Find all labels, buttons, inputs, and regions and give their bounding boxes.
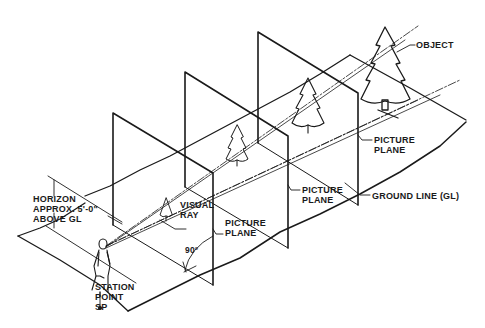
station-point-label-line1: STATION — [95, 282, 135, 292]
visual-ray-label-line1: VISUAL — [180, 200, 214, 210]
station-point-label: STATION POINT SP — [95, 282, 135, 312]
picture-plane-far — [258, 32, 358, 205]
horizon-dimension — [46, 176, 136, 283]
visual-ray-label: VISUAL RAY — [180, 200, 214, 220]
ground-line-label: GROUND LINE (GL) — [372, 191, 459, 201]
picture-plane-far-label: PICTURE PLANE — [374, 135, 415, 155]
picture-plane-near-label-line1: PICTURE — [225, 218, 266, 228]
tree-image-far — [292, 78, 324, 133]
picture-plane-near — [113, 113, 213, 285]
picture-plane-far-label-line2: PLANE — [374, 145, 415, 155]
visual-ray-label-line2: RAY — [180, 210, 214, 220]
horizon-label-line2: APPROX. 5'-0" — [33, 204, 98, 214]
ground-line-label-text: GROUND LINE (GL) — [372, 191, 459, 201]
angle-label-text: 90° — [185, 245, 198, 255]
horizon-label-line1: HORIZON — [33, 194, 98, 204]
picture-plane-near-label: PICTURE PLANE — [225, 218, 266, 238]
picture-plane-middle-label-line1: PICTURE — [302, 185, 343, 195]
station-point-label-line2: POINT — [95, 292, 135, 302]
station-point-label-line3: SP — [95, 302, 135, 312]
ground-line — [128, 122, 466, 311]
tree-image-near — [160, 198, 172, 221]
picture-plane-far-label-line1: PICTURE — [374, 135, 415, 145]
tree-object — [361, 27, 410, 118]
horizon-label: HORIZON APPROX. 5'-0" ABOVE GL — [33, 194, 98, 224]
picture-plane-near-label-line2: PLANE — [225, 228, 266, 238]
horizon-label-line3: ABOVE GL — [33, 214, 98, 224]
perspective-diagram — [0, 0, 485, 328]
angle-label: 90° — [185, 245, 198, 255]
object-label: OBJECT — [416, 40, 454, 50]
object-label-text: OBJECT — [416, 40, 454, 50]
picture-plane-middle-label: PICTURE PLANE — [302, 185, 343, 205]
ground-plane — [18, 55, 466, 311]
tree-image-middle — [226, 125, 248, 166]
picture-plane-middle-label-line2: PLANE — [302, 195, 343, 205]
